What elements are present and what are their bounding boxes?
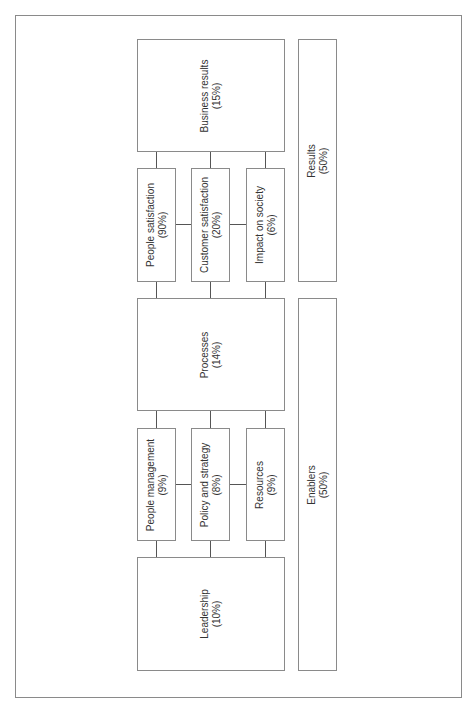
business-results-label: Business results (15%) (199, 59, 223, 132)
people-management-weight: (9%) (157, 438, 169, 530)
customer-satisfaction-box: Customer satisfaction (20%) (191, 168, 230, 282)
results-group-label: Results (50%) (306, 144, 330, 177)
enablers-group-title: Enablers (306, 465, 318, 504)
connector-business-to-customer-satisfaction (210, 151, 211, 168)
connector-people-management-to-leadership (156, 540, 157, 557)
customer-satisfaction-weight: (20%) (211, 177, 223, 273)
leadership-title: Leadership (199, 589, 211, 638)
impact-on-society-title: Impact on society (254, 186, 266, 264)
connector-customer-satisfaction-to-processes (210, 281, 211, 298)
people-management-label: People management (9%) (145, 438, 169, 530)
people-management-title: People management (145, 438, 157, 530)
policy-and-strategy-label: Policy and strategy (8%) (199, 442, 223, 527)
enablers-group-weight: (50%) (318, 465, 330, 504)
connector-processes-to-policy (210, 410, 211, 428)
people-satisfaction-weight: (90%) (157, 183, 169, 267)
processes-title: Processes (199, 331, 211, 378)
connector-business-to-people-satisfaction (156, 151, 157, 168)
results-group-title: Results (306, 144, 318, 177)
resources-box: Resources (9%) (246, 428, 285, 541)
impact-on-society-weight: (6%) (266, 186, 278, 264)
people-satisfaction-label: People satisfaction (90%) (145, 183, 169, 267)
connector-policy-to-leadership (210, 540, 211, 557)
impact-on-society-label: Impact on society (6%) (254, 186, 278, 264)
processes-label: Processes (14%) (199, 331, 223, 378)
diagram-page: Business results (15%) People satisfacti… (0, 0, 474, 710)
processes-box: Processes (14%) (137, 298, 285, 411)
leadership-label: Leadership (10%) (199, 589, 223, 638)
connector-processes-to-resources (265, 410, 266, 428)
people-satisfaction-box: People satisfaction (90%) (137, 168, 176, 282)
connector-people-to-customer-satisfaction (175, 224, 191, 225)
connector-policy-to-resources (229, 484, 246, 485)
connector-customer-to-impact (229, 224, 246, 225)
connector-people-satisfaction-to-processes (156, 281, 157, 298)
people-management-box: People management (9%) (137, 428, 176, 541)
leadership-weight: (10%) (211, 589, 223, 638)
results-group-bar: Results (50%) (298, 39, 337, 282)
business-results-weight: (15%) (211, 59, 223, 132)
results-group-weight: (50%) (318, 144, 330, 177)
leadership-box: Leadership (10%) (137, 557, 285, 671)
people-satisfaction-title: People satisfaction (145, 183, 157, 267)
policy-and-strategy-weight: (8%) (211, 442, 223, 527)
customer-satisfaction-title: Customer satisfaction (199, 177, 211, 273)
processes-weight: (14%) (211, 331, 223, 378)
resources-label: Resources (9%) (254, 461, 278, 509)
enablers-group-bar: Enablers (50%) (298, 298, 337, 671)
resources-title: Resources (254, 461, 266, 509)
business-results-box: Business results (15%) (137, 39, 285, 152)
enablers-group-label: Enablers (50%) (306, 465, 330, 504)
business-results-title: Business results (199, 59, 211, 132)
connector-people-management-to-policy (175, 484, 191, 485)
customer-satisfaction-label: Customer satisfaction (20%) (199, 177, 223, 273)
policy-and-strategy-title: Policy and strategy (199, 442, 211, 527)
connector-resources-to-leadership (265, 540, 266, 557)
connector-business-to-impact-on-society (265, 151, 266, 168)
impact-on-society-box: Impact on society (6%) (246, 168, 285, 282)
connector-processes-to-people-management (156, 410, 157, 428)
connector-impact-to-processes (265, 281, 266, 298)
resources-weight: (9%) (266, 461, 278, 509)
policy-and-strategy-box: Policy and strategy (8%) (191, 428, 230, 541)
